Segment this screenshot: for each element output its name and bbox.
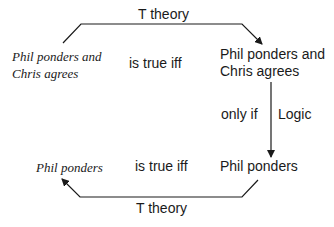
logic-label: Logic — [278, 106, 311, 123]
top-meta-sentence-line2: Chris agrees — [220, 63, 299, 80]
bottom-object-sentence: Phil ponders — [36, 159, 103, 176]
top-arrow-label: T theory — [138, 6, 189, 23]
bottom-t-theory-arrow — [62, 179, 258, 197]
bottom-relation: is true iff — [135, 158, 188, 175]
bottom-arrow-label: T theory — [136, 200, 187, 217]
middle-relation: only if — [221, 106, 258, 123]
top-t-theory-arrow — [63, 24, 262, 44]
top-object-sentence-line2: Chris agrees — [12, 65, 78, 82]
bottom-meta-sentence: Phil ponders — [220, 158, 298, 175]
top-meta-sentence-line1: Phil ponders and — [220, 46, 325, 63]
top-relation: is true iff — [129, 55, 182, 72]
top-object-sentence-line1: Phil ponders and — [12, 48, 102, 65]
